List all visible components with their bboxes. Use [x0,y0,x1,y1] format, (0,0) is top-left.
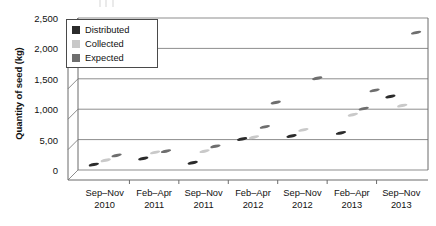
data-point [298,127,309,132]
x-tick-label-line: Sep–Nov [184,188,222,200]
gridline-1500 [68,79,428,89]
x-tick-label-line: Feb–Apr [136,188,172,200]
data-point [385,94,396,99]
data-point [100,158,111,163]
x-tick-label-2: Sep–Nov2011 [184,188,222,211]
legend-item-collected: Collected [72,37,153,51]
marker-expected [161,149,172,154]
legend-swatch-expected [72,54,80,62]
x-tick-label-line: Feb–Apr [235,188,271,200]
data-point [286,133,297,138]
marker-collected [199,149,210,154]
seed-quantity-chart: Quantity of seed (kg) 05,001,0001,5002,0… [0,0,436,226]
x-tick-label-5: Feb–Apr2013 [334,188,370,211]
marker-collected [249,135,260,140]
legend-swatch-collected [72,40,80,48]
x-tick-label-line: 2013 [334,200,370,212]
marker-expected [210,144,221,149]
marker-expected [111,153,122,158]
data-point [358,106,369,111]
x-tick-label-line: 2013 [382,200,420,212]
data-point [312,76,323,81]
marker-expected [358,106,369,111]
data-point [210,144,221,149]
x-tick-label-line: 2010 [86,200,124,212]
marker-distributed [88,162,99,167]
x-tick-label-1: Feb–Apr2011 [136,188,172,211]
y-tick-label-1500: 1,500 [34,73,58,84]
x-tick-label-line: 2012 [235,200,271,212]
x-tick-label-line: 2011 [136,200,172,212]
data-point [199,149,210,154]
data-point [411,30,422,35]
x-tick-label-4: Sep–Nov2012 [283,188,321,211]
marker-collected [298,127,309,132]
marker-distributed [385,94,396,99]
marker-distributed [187,160,198,165]
marker-distributed [138,156,149,161]
marker-distributed [336,130,347,135]
chart-legend: Distributed Collected Expected [66,19,158,68]
marker-expected [259,124,270,129]
x-tick-label-line: Sep–Nov [283,188,321,200]
marker-expected [270,100,281,105]
legend-item-expected: Expected [72,51,153,65]
x-tick-label-line: 2012 [283,200,321,212]
legend-swatch-distributed [72,26,80,34]
gridline-1000 [68,109,428,119]
data-point [259,124,270,129]
legend-label-expected: Expected [85,53,124,63]
data-point [249,135,260,140]
marker-expected [411,30,422,35]
y-tick-label-500: 5,00 [40,134,59,145]
y-tick-label-2500: 2,500 [34,13,58,24]
x-axis-tick-labels: Sep–Nov2010Feb–Apr2011Sep–Nov2011Feb–Apr… [62,188,430,220]
marker-expected [369,88,380,93]
marker-expected [312,76,323,81]
x-tick-label-6: Sep–Nov2013 [382,188,420,211]
gridline-500 [68,140,428,150]
x-tick-label-line: Sep–Nov [382,188,420,200]
legend-label-distributed: Distributed [85,25,129,35]
marker-collected [100,158,111,163]
x-tick-label-line: Sep–Nov [86,188,124,200]
cropped-title-artifact [96,0,122,7]
data-point [111,153,122,158]
data-point [150,150,161,155]
legend-label-collected: Collected [85,39,124,49]
data-point [237,136,248,141]
gridline-0 [68,170,428,180]
x-tick-label-line: Feb–Apr [334,188,370,200]
marker-distributed [237,136,248,141]
legend-item-distributed: Distributed [72,23,153,37]
data-point [397,103,408,108]
marker-collected [150,150,161,155]
data-point [187,160,198,165]
data-point [369,88,380,93]
data-point [270,100,281,105]
data-point [336,130,347,135]
marker-collected [397,103,408,108]
y-tick-label-0: 0 [53,165,58,176]
data-point [161,149,172,154]
y-tick-label-1000: 1,000 [34,104,58,115]
data-point [88,162,99,167]
y-tick-label-2000: 2,000 [34,43,58,54]
y-axis-tick-labels: 05,001,0001,5002,0002,500 [18,0,58,226]
data-point [138,156,149,161]
x-tick-label-0: Sep–Nov2010 [86,188,124,211]
data-point [347,112,358,117]
marker-distributed [286,133,297,138]
marker-collected [347,112,358,117]
x-tick-label-3: Feb–Apr2012 [235,188,271,211]
x-tick-label-line: 2011 [184,200,222,212]
